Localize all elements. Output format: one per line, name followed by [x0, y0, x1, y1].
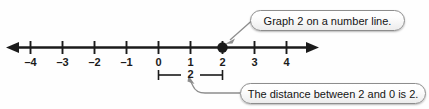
tick-label-4: 4	[272, 56, 302, 68]
tick-label-3: 3	[240, 56, 270, 68]
number-line-figure: –4 –3 –2 –1 0 1 2 3 4 2 Graph 2 on a num…	[0, 0, 429, 109]
tick-label--3: –3	[48, 56, 78, 68]
tick-label--1: –1	[112, 56, 142, 68]
tick-label-2: 2	[208, 56, 238, 68]
callout-graph-point: Graph 2 on a number line.	[250, 10, 405, 31]
left-arrow-icon	[6, 42, 19, 53]
tick-label--4: –4	[16, 56, 46, 68]
tick-label-0: 0	[144, 56, 174, 68]
callout-distance: The distance between 2 and 0 is 2.	[240, 83, 426, 104]
distance-bracket-label: 2	[181, 68, 201, 80]
tick-label--2: –2	[80, 56, 110, 68]
tick-label-1: 1	[176, 56, 206, 68]
right-arrow-icon	[306, 42, 319, 53]
